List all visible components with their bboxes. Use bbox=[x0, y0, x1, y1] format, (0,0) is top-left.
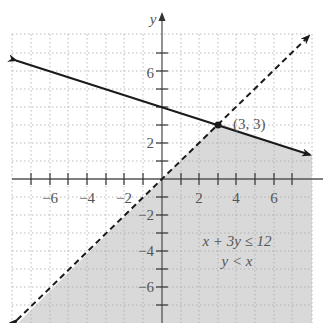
y-axis-label: y bbox=[148, 11, 157, 27]
vertex-point bbox=[215, 122, 222, 129]
vertex-label: (3, 3) bbox=[233, 116, 266, 133]
y-tick-label: −6 bbox=[138, 279, 154, 295]
x-tick-label: 6 bbox=[270, 190, 278, 206]
y-axis-arrow-icon bbox=[159, 12, 166, 21]
shaded-region bbox=[18, 123, 312, 323]
x-tick-label: −4 bbox=[79, 190, 95, 206]
inequality-2-label: y < x bbox=[220, 253, 253, 269]
x-tick-label: −6 bbox=[42, 190, 58, 206]
line-x-plus-3y-eq-12 bbox=[16, 61, 310, 155]
x-tick-label: 4 bbox=[232, 190, 240, 206]
y-tick-label: 2 bbox=[147, 135, 155, 151]
x-tick-label: −2 bbox=[116, 190, 132, 206]
y-tick-label: 6 bbox=[147, 65, 155, 81]
y-tick-label: −4 bbox=[138, 243, 154, 259]
graph: −6 −4 −2 2 4 6 6 2 −2 −4 −6 y (3, 3) x +… bbox=[0, 0, 323, 323]
y-tick-label: −2 bbox=[138, 207, 154, 223]
inequality-1-label: x + 3y ≤ 12 bbox=[201, 233, 272, 249]
x-tick-label: 2 bbox=[195, 190, 203, 206]
